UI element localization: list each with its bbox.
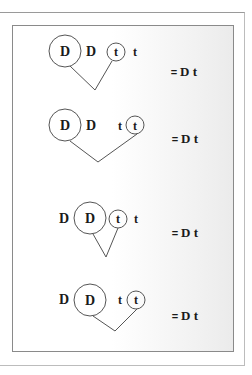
row-2-diagram <box>49 109 144 162</box>
row-3-result: D t <box>181 225 199 240</box>
row-1-pairing-line <box>70 61 112 90</box>
row-1-equals: = <box>171 66 177 78</box>
row-1-token-2: D <box>86 44 96 59</box>
row-4-token-4: t <box>134 293 138 307</box>
row-2-token-4: t <box>133 119 137 133</box>
row-2-equals: = <box>172 133 178 145</box>
row-1-result: D t <box>180 64 198 79</box>
row-2-token-3: t <box>118 119 122 133</box>
row-4-equals: = <box>172 310 178 322</box>
row-1-token-4: t <box>133 45 137 59</box>
row-4-token-1: D <box>59 292 69 307</box>
row-4-token-3: t <box>118 293 122 307</box>
row-3-token-4: t <box>134 212 138 226</box>
row-2-result: D t <box>181 131 199 146</box>
allele-combination-diagram: D D t t = D t D D t t = D t D D t t = D … <box>0 0 252 375</box>
row-1-token-1: D <box>60 44 70 59</box>
row-3-token-2: D <box>85 211 95 226</box>
row-3-equals: = <box>172 227 178 239</box>
row-2-token-2: D <box>86 118 96 133</box>
row-4-token-2: D <box>85 293 95 308</box>
row-1-token-3: t <box>114 45 118 59</box>
row-3-diagram <box>74 202 127 257</box>
row-3-token-1: D <box>59 211 69 226</box>
row-3-token-3: t <box>116 212 120 226</box>
row-4-result: D t <box>181 308 199 323</box>
row-2-pairing-line <box>70 134 137 162</box>
row-2-token-1: D <box>60 118 70 133</box>
